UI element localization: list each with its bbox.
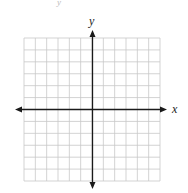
- y-axis-label: y: [88, 14, 95, 28]
- y-axis-down-arrow-icon: [90, 182, 96, 189]
- x-axis: [15, 107, 167, 113]
- coordinate-plane: y x y: [0, 0, 188, 193]
- y-axis-up-arrow-icon: [90, 30, 96, 37]
- x-axis-left-arrow-icon: [15, 107, 22, 113]
- cropped-text-fragment: y: [56, 0, 61, 7]
- x-axis-label: x: [171, 102, 178, 116]
- x-axis-right-arrow-icon: [160, 107, 167, 113]
